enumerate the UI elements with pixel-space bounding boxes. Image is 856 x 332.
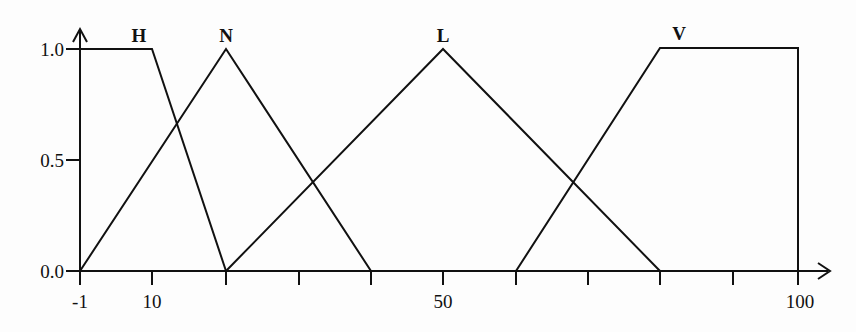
series-L [226,49,660,271]
x-label-100: 100 [786,291,815,312]
fuzzy-membership-chart: 0.0 0.5 1.0 -1 10 50 100 H N L V [0,0,856,332]
y-label-1: 1.0 [40,39,64,60]
x-label-10: 10 [143,291,162,312]
series-label-V: V [672,23,686,44]
y-label-0: 0.0 [40,261,64,282]
x-label-50: 50 [434,291,453,312]
x-ticks [80,271,798,285]
x-label-m1: -1 [72,291,88,312]
series-label-N: N [219,25,233,46]
y-label-05: 0.5 [40,150,64,171]
series-label-L: L [437,25,450,46]
series-label-H: H [132,25,147,46]
series-V [516,48,798,271]
series-N [80,49,371,271]
